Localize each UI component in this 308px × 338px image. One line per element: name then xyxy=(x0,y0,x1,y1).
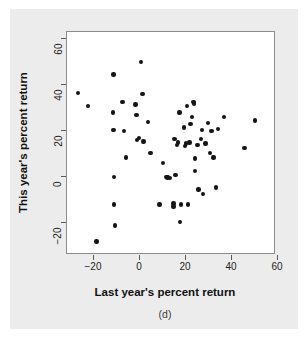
data-point xyxy=(203,141,207,145)
y-axis-tick-label: −20 xyxy=(53,228,64,245)
data-point xyxy=(113,223,117,227)
data-point xyxy=(161,161,165,165)
data-point xyxy=(190,115,194,119)
y-axis-tick-label: 60 xyxy=(53,44,64,55)
data-point xyxy=(165,175,169,179)
x-axis-tick xyxy=(139,255,140,260)
x-axis-tick xyxy=(185,255,186,260)
data-point xyxy=(111,110,115,114)
data-point xyxy=(148,151,152,155)
data-point xyxy=(133,102,137,106)
x-axis-tick xyxy=(93,255,94,260)
x-axis-tick-label: 40 xyxy=(211,261,251,272)
data-point xyxy=(94,239,98,243)
y-axis-tick-label: 40 xyxy=(53,90,64,101)
y-axis-tick-label: 20 xyxy=(53,136,64,147)
y-axis-tick-label: 0 xyxy=(53,182,64,188)
data-point xyxy=(141,139,145,143)
data-point xyxy=(112,202,116,206)
data-point xyxy=(178,220,182,224)
data-point xyxy=(122,129,126,133)
data-point xyxy=(124,155,128,159)
data-point xyxy=(209,129,213,133)
x-axis-tick-label: −20 xyxy=(73,261,113,272)
y-axis-title: This year's percent return xyxy=(15,31,31,254)
y-axis-tick xyxy=(61,222,66,223)
data-point xyxy=(175,143,179,147)
x-axis-tick xyxy=(231,255,232,260)
data-point xyxy=(112,175,116,179)
data-point xyxy=(206,121,210,125)
data-point xyxy=(120,100,124,104)
y-axis-tick xyxy=(61,84,66,85)
data-point xyxy=(139,60,143,64)
y-axis-tick xyxy=(61,130,66,131)
data-point xyxy=(200,128,204,132)
data-point xyxy=(173,173,177,177)
data-point xyxy=(195,143,199,147)
figure-container: −200204060−200204060 This year's percent… xyxy=(0,0,308,338)
data-point xyxy=(201,192,205,196)
data-point xyxy=(196,187,200,191)
x-axis-tick xyxy=(277,255,278,260)
data-point xyxy=(76,91,80,95)
y-axis-tick xyxy=(61,38,66,39)
data-point xyxy=(222,115,226,119)
data-point xyxy=(188,122,192,126)
data-point xyxy=(214,185,218,189)
data-point xyxy=(177,110,181,114)
data-point xyxy=(185,104,189,108)
data-point xyxy=(111,128,115,132)
data-point xyxy=(186,202,190,206)
data-point xyxy=(253,118,257,122)
plot-panel xyxy=(66,31,275,254)
x-axis-tick-label: 20 xyxy=(165,261,205,272)
data-point xyxy=(182,125,186,129)
data-point xyxy=(187,140,191,144)
y-axis-tick xyxy=(61,176,66,177)
x-axis-tick-label: 0 xyxy=(119,261,159,272)
data-point xyxy=(211,155,215,159)
x-axis-title: Last year's percent return xyxy=(40,286,290,298)
data-point xyxy=(171,204,175,208)
x-axis-tick-label: 60 xyxy=(257,261,297,272)
data-point xyxy=(157,202,161,206)
data-point xyxy=(193,169,197,173)
data-point xyxy=(146,120,150,124)
data-point xyxy=(192,101,196,105)
data-point xyxy=(140,92,144,96)
figure-caption: (d) xyxy=(40,308,290,320)
data-point xyxy=(199,137,203,141)
data-point xyxy=(134,113,138,117)
data-point xyxy=(111,72,115,76)
data-point xyxy=(179,202,183,206)
data-point xyxy=(242,146,246,150)
data-point xyxy=(193,156,197,160)
data-point xyxy=(86,104,90,108)
data-point xyxy=(216,127,220,131)
